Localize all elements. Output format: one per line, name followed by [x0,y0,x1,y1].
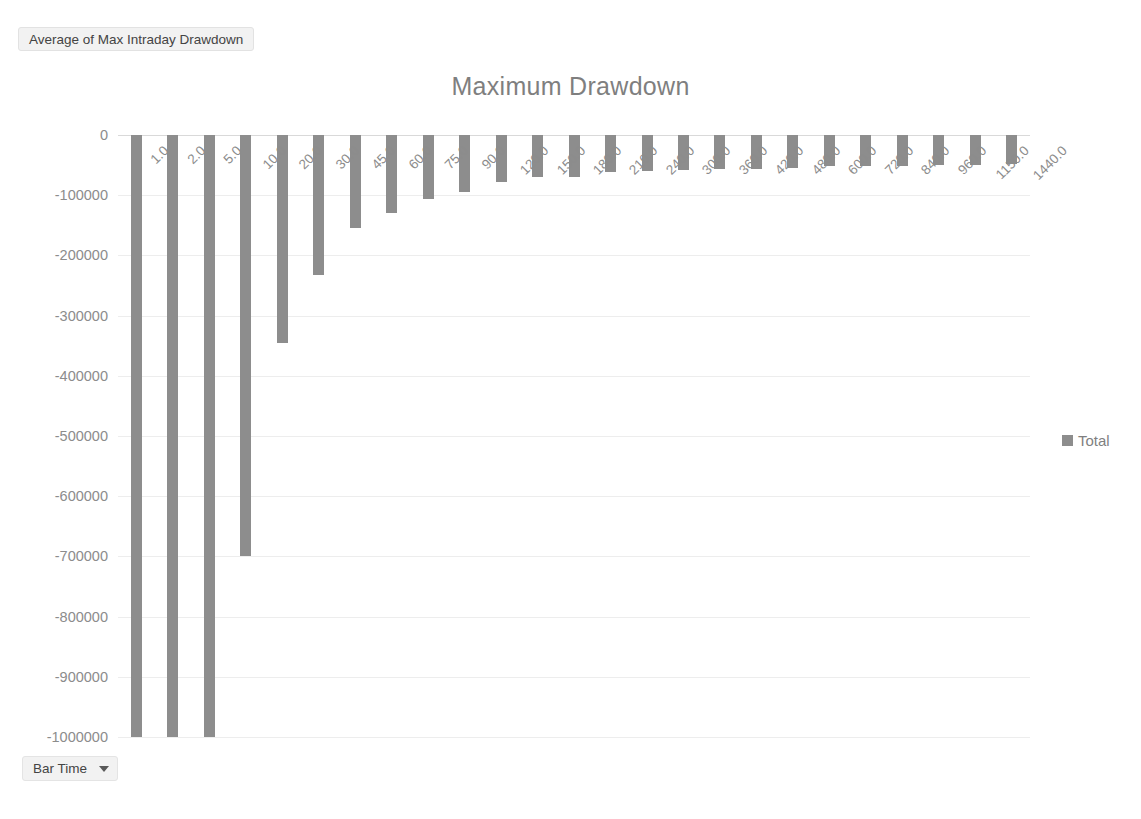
pivot-axis-field-label: Bar Time [33,761,87,776]
x-axis-tick-label: 120.0 [517,143,552,178]
y-axis-tick-label: -100000 [8,187,108,203]
bar-slot [300,135,336,737]
bar-slot [957,135,993,737]
bar-slot [811,135,847,737]
x-axis-tick-label: 10.0 [259,143,288,172]
bar-slot [592,135,628,737]
bar-slot [921,135,957,737]
bar-slot [483,135,519,737]
y-axis-tick-label: -900000 [8,669,108,685]
x-axis-tick-label: 1150.0 [993,143,1032,182]
x-axis-tick-label: 150.0 [553,143,588,178]
x-axis-tick-label: 720.0 [882,143,917,178]
x-axis-tick-label: 2.0 [184,143,208,167]
bar-slot [775,135,811,737]
legend-label-total: Total [1078,432,1110,449]
bar-slot [848,135,884,737]
y-axis-tick-label: 0 [8,127,108,143]
y-axis-tick-label: -300000 [8,308,108,324]
bar-slot [410,135,446,737]
bar-slot [373,135,409,737]
legend-square-icon [1062,435,1073,446]
y-axis-tick-label: -600000 [8,488,108,504]
bar-series-total [118,135,1030,737]
x-axis-tick-label: 75.0 [442,143,471,172]
chevron-down-icon[interactable] [99,766,109,772]
x-axis-tick-label: 240.0 [663,143,698,178]
bar-slot [337,135,373,737]
chart-title: Maximum Drawdown [0,72,1141,101]
x-axis: 1.02.05.010.020.030.045.060.075.090.0120… [118,135,1030,215]
y-axis-tick-label: -1000000 [8,729,108,745]
x-axis-tick-label: 420.0 [772,143,807,178]
bar-slot [702,135,738,737]
bar-slot [994,135,1030,737]
y-axis: 0-100000-200000-300000-400000-500000-600… [0,135,108,737]
bar-slot [154,135,190,737]
gridline [118,737,1030,738]
bar-slot [884,135,920,737]
y-axis-tick-label: -200000 [8,247,108,263]
pivot-axis-field-button[interactable]: Bar Time [22,756,118,781]
bar-slot [556,135,592,737]
pivot-value-field-button[interactable]: Average of Max Intraday Drawdown [18,27,254,51]
x-axis-tick-label: 60.0 [405,143,434,172]
x-axis-tick-label: 960.0 [955,143,990,178]
x-axis-tick-label: 480.0 [809,143,844,178]
bar-slot [118,135,154,737]
x-axis-tick-label: 600.0 [845,143,880,178]
x-axis-tick-label: 90.0 [478,143,507,172]
y-axis-tick-label: -700000 [8,548,108,564]
x-axis-tick-label: 1.0 [148,143,172,167]
bar-slot [665,135,701,737]
bar-slot [264,135,300,737]
chart-legend: Total [1062,432,1110,449]
bar[interactable] [204,135,215,737]
x-axis-tick-label: 210.0 [626,143,661,178]
bar-slot [191,135,227,737]
x-axis-tick-label: 300.0 [699,143,734,178]
bar-slot [519,135,555,737]
bar[interactable] [131,135,142,737]
x-axis-tick-label: 20.0 [296,143,325,172]
bar-slot [738,135,774,737]
y-axis-tick-label: -800000 [8,609,108,625]
x-axis-tick-label: 360.0 [736,143,771,178]
bar[interactable] [167,135,178,737]
x-axis-tick-label: 180.0 [590,143,625,178]
y-axis-tick-label: -400000 [8,368,108,384]
x-axis-tick-label: 5.0 [221,143,245,167]
x-axis-tick-label: 30.0 [332,143,361,172]
y-axis-tick-label: -500000 [8,428,108,444]
bar-slot [227,135,263,737]
bar-slot [446,135,482,737]
x-axis-tick-label: 45.0 [369,143,398,172]
pivot-value-field-label: Average of Max Intraday Drawdown [29,32,243,47]
x-axis-tick-label: 1440.0 [1030,143,1070,183]
x-axis-tick-label: 840.0 [918,143,953,178]
bar-slot [629,135,665,737]
